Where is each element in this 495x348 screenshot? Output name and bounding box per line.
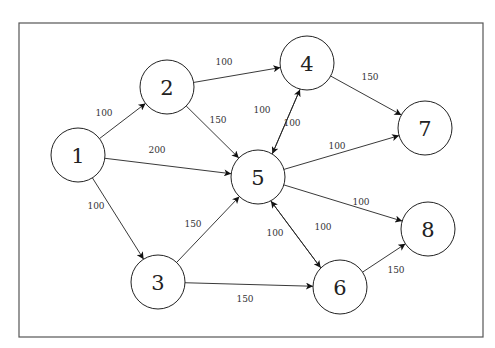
edge-weight-label: 100 bbox=[314, 222, 331, 232]
edge-weight-label: 200 bbox=[148, 145, 165, 155]
edge-2-to-5 bbox=[186, 106, 239, 158]
node-5: 5 bbox=[231, 150, 285, 204]
edge-3-to-5 bbox=[177, 197, 240, 263]
node-label: 6 bbox=[333, 276, 346, 300]
edge-weight-label: 150 bbox=[361, 72, 378, 82]
edge-weight-label: 150 bbox=[209, 115, 226, 125]
node-label: 5 bbox=[251, 166, 264, 190]
node-3: 3 bbox=[131, 255, 185, 309]
node-8: 8 bbox=[401, 202, 455, 256]
edge-1-to-3 bbox=[92, 178, 143, 259]
edge-weight-label: 100 bbox=[95, 108, 112, 118]
node-label: 4 bbox=[300, 52, 313, 76]
edge-weight-label: 100 bbox=[283, 118, 300, 128]
node-1: 1 bbox=[51, 128, 105, 182]
edge-5-to-8 bbox=[284, 185, 402, 221]
edge-weight-label: 150 bbox=[236, 294, 253, 304]
node-4: 4 bbox=[280, 36, 334, 90]
edge-2-to-4 bbox=[194, 68, 281, 83]
graph-diagram: 1002001001001501501501001001501001001001… bbox=[0, 0, 495, 348]
edge-weight-label: 150 bbox=[387, 265, 404, 275]
edge-weight-label: 100 bbox=[352, 197, 369, 207]
edge-weight-label: 150 bbox=[184, 219, 201, 229]
edge-weight-label: 100 bbox=[87, 201, 104, 211]
node-7: 7 bbox=[398, 101, 452, 155]
node-2: 2 bbox=[140, 60, 194, 114]
node-label: 1 bbox=[71, 144, 84, 168]
node-label: 3 bbox=[151, 271, 164, 295]
node-label: 2 bbox=[160, 76, 173, 100]
node-label: 8 bbox=[421, 218, 434, 242]
edge-weight-label: 100 bbox=[266, 228, 283, 238]
edge-1-to-5 bbox=[105, 158, 231, 173]
edge-weight-label: 100 bbox=[215, 57, 232, 67]
edge-weight-label: 100 bbox=[253, 105, 270, 115]
node-6: 6 bbox=[313, 260, 367, 314]
edge-weight-label: 100 bbox=[328, 141, 345, 151]
node-label: 7 bbox=[418, 117, 431, 141]
edge-3-to-6 bbox=[185, 283, 313, 287]
